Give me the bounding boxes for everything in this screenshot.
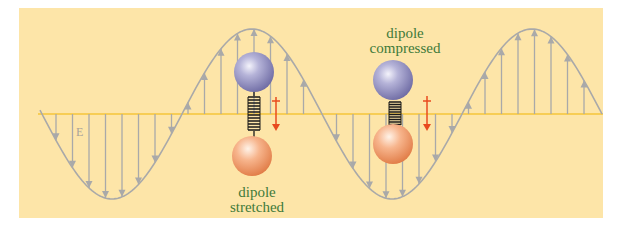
label-dipole-compressed: dipole compressed	[360, 26, 450, 56]
positive-charge-sphere	[373, 124, 413, 164]
label-line-1: dipole	[360, 26, 450, 41]
label-line-2: stretched	[222, 200, 292, 215]
positive-charge-sphere	[232, 136, 272, 176]
negative-charge-sphere	[373, 60, 413, 100]
field-label-e: E	[76, 125, 83, 140]
label-dipole-stretched: dipole stretched	[222, 185, 292, 215]
diagram-canvas	[0, 0, 619, 227]
negative-charge-sphere	[234, 52, 274, 92]
dipole-field-diagram: E dipole stretched dipole compressed	[0, 0, 619, 227]
label-line-2: compressed	[360, 41, 450, 56]
label-line-1: dipole	[222, 185, 292, 200]
